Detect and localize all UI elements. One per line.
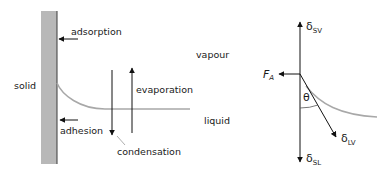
vapour-label: vapour <box>196 49 229 60</box>
theta-arc <box>300 105 318 108</box>
condensation-leader <box>117 136 125 145</box>
meniscus-curve-right <box>306 86 377 117</box>
delta-lv-arrow <box>300 74 336 137</box>
condensation-label: condensation <box>117 146 181 157</box>
adhesion-label: adhesion <box>60 125 103 136</box>
fa-label: FA <box>263 68 274 82</box>
evaporation-label: evaporation <box>136 84 193 95</box>
delta-lv-label: δLV <box>341 132 356 147</box>
solid-label: solid <box>14 80 36 91</box>
liquid-label: liquid <box>204 115 230 126</box>
delta-sv-label: δSV <box>306 20 322 35</box>
right-panel: θ FA δSV δLV δSL <box>263 20 377 167</box>
delta-sl-label: δSL <box>306 152 321 167</box>
wetting-diagram: solid adsorption adhesion condensation e… <box>0 0 377 172</box>
solid-wall <box>41 11 57 164</box>
adsorption-label: adsorption <box>71 26 122 37</box>
theta-label: θ <box>303 91 310 104</box>
left-panel: solid adsorption adhesion condensation e… <box>14 11 230 164</box>
